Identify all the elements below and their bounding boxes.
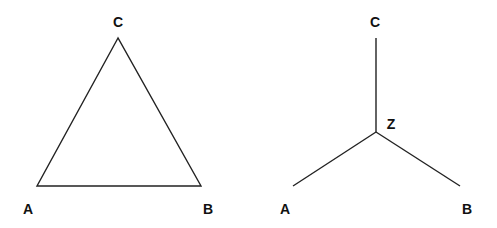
edge-z-b [376, 132, 460, 186]
node-label-a: A [280, 201, 290, 217]
wye-star: C Z A B [280, 14, 472, 217]
node-label-c: C [370, 14, 380, 30]
node-label-c: C [113, 14, 123, 30]
triangle-outline [37, 38, 201, 186]
node-label-b: B [203, 201, 213, 217]
delta-triangle: C A B [23, 14, 213, 217]
diagram-canvas: C A B C Z A B [0, 0, 497, 228]
node-label-b: B [462, 201, 472, 217]
node-label-z: Z [387, 116, 396, 132]
edge-z-a [293, 132, 376, 186]
node-label-a: A [23, 201, 33, 217]
